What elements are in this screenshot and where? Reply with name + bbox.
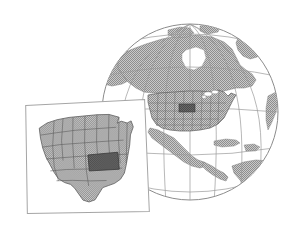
inset-panel [25,100,150,215]
inset-highlighted-state [88,152,119,171]
illustration-canvas [0,0,291,230]
globe-inset-figure: Globe with United States inset highlight… [0,0,291,230]
globe-highlighted-state [179,104,195,112]
